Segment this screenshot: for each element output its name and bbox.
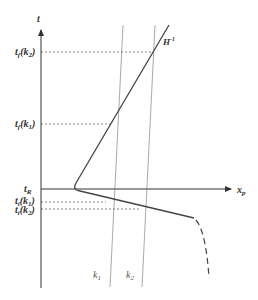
- h-inverse-dashed-tail: [196, 220, 209, 278]
- tf-k2-label: tf(k2): [15, 46, 35, 59]
- t-axis-label: t: [37, 13, 41, 24]
- k1-line: [110, 25, 123, 287]
- diagram-canvas: t xp tR tf(k2) tf(k1) ti(k1) ti(k2) H-1 …: [0, 0, 258, 300]
- k2-label: k2: [126, 269, 134, 282]
- h-inverse-label: H-1: [162, 36, 175, 47]
- tf-k1-label: tf(k1): [15, 118, 35, 131]
- k2-line: [142, 25, 155, 287]
- xp-axis-label: xp: [236, 184, 246, 197]
- k1-label: k1: [93, 269, 101, 282]
